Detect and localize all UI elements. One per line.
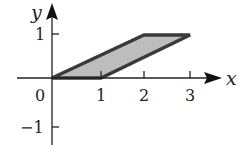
origin-label: 0	[35, 86, 45, 105]
y-tick-label-neg1: −1	[20, 118, 44, 137]
y-axis-label: y	[30, 1, 42, 23]
coordinate-plane: x y 0 1 2 3 1 −1	[0, 0, 250, 157]
x-tick-label-3: 3	[185, 86, 195, 105]
x-axis-label: x	[226, 67, 237, 89]
x-tick-label-1: 1	[96, 86, 106, 105]
x-tick-label-2: 2	[139, 86, 149, 105]
y-tick-label-1: 1	[35, 25, 45, 44]
parallelogram-region	[52, 35, 190, 78]
